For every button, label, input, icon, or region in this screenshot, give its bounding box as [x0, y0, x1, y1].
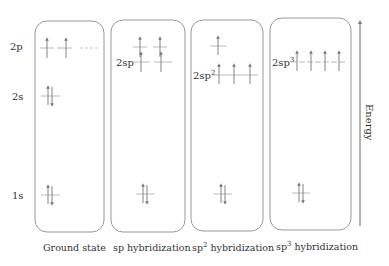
panel-ground-box: [35, 21, 104, 232]
panel-sp-box: [111, 20, 185, 232]
caption-sp3-hybridization: sp3 hybridization: [276, 240, 358, 252]
hybridization-diagram: 2p 2s 1s Ground state 2sp: [0, 0, 389, 266]
level-label-2p: 2p: [10, 41, 23, 52]
energy-axis: Energy: [360, 22, 375, 226]
level-label-1s: 1s: [12, 190, 24, 201]
caption-sp2-hybridization: sp2 hybridization: [192, 241, 274, 253]
caption-ground-state: Ground state: [43, 242, 106, 253]
panel-sp3-box: [270, 18, 351, 230]
caption-sp-hybridization: sp hybridization: [113, 242, 191, 253]
panel-ground: 2p 2s 1s Ground state: [10, 39, 106, 253]
level-label-2sp: 2sp: [116, 57, 134, 68]
panel-sp: 2sp sp hybridization: [113, 38, 191, 253]
panel-sp2: 2sp2 sp2 hybridization: [192, 37, 274, 253]
panel-sp2-box: [191, 20, 263, 231]
level-label-2s: 2s: [12, 91, 24, 102]
panel-sp3: 2sp3 sp3 hybridization: [272, 52, 358, 252]
energy-axis-label: Energy: [364, 104, 375, 141]
